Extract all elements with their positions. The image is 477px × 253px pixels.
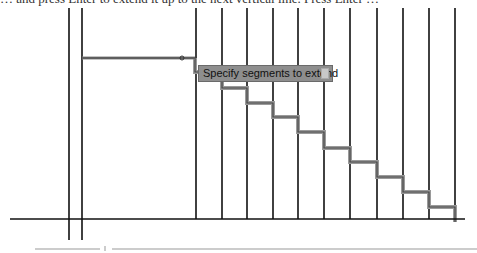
staircase-highlight[interactable] bbox=[195, 58, 455, 222]
tooltip-label: Specify segments to extend bbox=[203, 67, 338, 79]
drawing-canvas[interactable] bbox=[0, 0, 477, 253]
command-tooltip: Specify segments to extend bbox=[198, 65, 333, 82]
staircase-segments bbox=[195, 58, 455, 222]
dropdown-arrow-icon[interactable] bbox=[321, 68, 329, 79]
vertical-lines bbox=[69, 8, 455, 240]
